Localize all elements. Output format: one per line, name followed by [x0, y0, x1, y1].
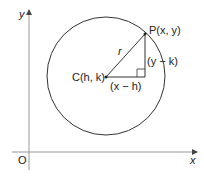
- origin-label: O: [18, 154, 27, 166]
- point-p: [144, 33, 147, 36]
- circle-equation-diagram: y x O P(x, y) C(h, k) r (x − h) (y − k): [0, 0, 204, 179]
- horizontal-leg-label: (x − h): [110, 80, 141, 92]
- point-p-label: P(x, y): [149, 24, 181, 36]
- x-axis-label: x: [189, 154, 196, 166]
- y-axis-label: y: [18, 8, 26, 20]
- vertical-leg-label: (y − k): [147, 55, 178, 67]
- radius-label: r: [118, 45, 123, 57]
- radius-line: [106, 34, 145, 77]
- right-angle-marker: [137, 69, 145, 77]
- point-c-label: C(h, k): [72, 71, 105, 83]
